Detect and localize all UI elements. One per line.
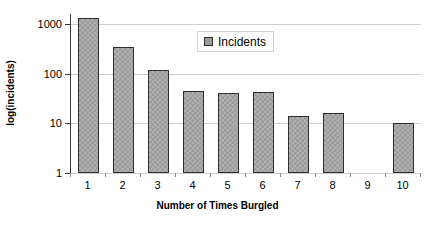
y-tick-label: 1 (18, 168, 62, 179)
x-axis-title: Number of Times Burgled (0, 200, 435, 211)
x-tick-mark (70, 173, 71, 177)
x-tick-label: 8 (316, 179, 350, 192)
x-tick-label: 3 (141, 179, 175, 192)
x-tick-label: 9 (351, 179, 385, 192)
x-tick-label: 5 (211, 179, 245, 192)
y-axis-title-label: log(incidents) (6, 60, 16, 126)
bar (218, 93, 239, 173)
x-tick-mark (140, 173, 141, 177)
bar (113, 47, 134, 173)
x-tick-mark (385, 173, 386, 177)
y-gridline (71, 24, 421, 25)
x-tick-label: 7 (281, 179, 315, 192)
x-tick-label: 1 (71, 179, 105, 192)
x-tick-label: 2 (106, 179, 140, 192)
x-tick-mark (420, 173, 421, 177)
bar (323, 113, 344, 173)
x-tick-mark (280, 173, 281, 177)
bar (393, 123, 414, 173)
y-gridline (71, 173, 421, 174)
legend-entry-label: Incidents (218, 36, 266, 48)
x-tick-label: 6 (246, 179, 280, 192)
y-tick-mark (65, 74, 70, 75)
legend-swatch-icon (204, 37, 213, 46)
y-tick-label: 10 (18, 118, 62, 129)
x-tick-label: 10 (386, 179, 420, 192)
bar (288, 116, 309, 173)
y-tick-mark (65, 24, 70, 25)
x-tick-mark (105, 173, 106, 177)
x-tick-label: 4 (176, 179, 210, 192)
chart-legend: Incidents (197, 31, 274, 52)
bar (78, 18, 99, 173)
y-tick-label: 1000 (18, 18, 62, 29)
x-tick-mark (350, 173, 351, 177)
x-tick-mark (245, 173, 246, 177)
bar (183, 91, 204, 173)
x-tick-mark (315, 173, 316, 177)
y-tick-label: 100 (18, 68, 62, 79)
bar (253, 92, 274, 173)
x-axis-title-label: Number of Times Burgled (156, 200, 278, 211)
bar-chart: log(incidents) Number of Times Burgled I… (0, 0, 435, 230)
x-tick-mark (210, 173, 211, 177)
x-tick-mark (175, 173, 176, 177)
bar (148, 70, 169, 173)
y-tick-mark (65, 123, 70, 124)
